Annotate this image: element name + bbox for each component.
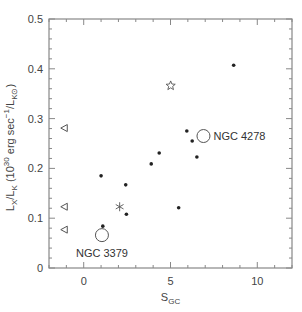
data-point-dot [124, 183, 128, 187]
data-point-dot [149, 162, 153, 166]
data-point-dot [125, 212, 129, 216]
data-marks [61, 64, 236, 242]
data-point-dot [190, 139, 194, 143]
y-tick-label: 0.5 [28, 13, 43, 25]
data-point-star [166, 81, 175, 90]
x-tick-label: 0 [81, 275, 87, 287]
data-point-circle [197, 130, 210, 143]
data-point-dot [101, 224, 105, 228]
y-axis-title-part: K⊙ [10, 88, 19, 100]
y-tick-label: 0.3 [28, 113, 43, 125]
y-tick-label: 0.1 [28, 212, 43, 224]
y-tick-label: 0.2 [28, 162, 43, 174]
y-axis-title: LX/LK (1030 erg sec−1/LK⊙) [2, 84, 19, 211]
x-axis-title: SGC [161, 291, 181, 306]
x-tick-label: 10 [251, 275, 263, 287]
scatter-chart: 0510 00.10.20.30.40.5 NGC 3379NGC 4278 S… [0, 0, 302, 312]
annotation-label: NGC 4278 [213, 130, 265, 142]
y-axis-title-part: /L [4, 100, 16, 109]
data-point-circle [95, 229, 108, 242]
plot-frame [49, 19, 292, 268]
x-axis-title-main: S [161, 291, 168, 303]
data-point-dot [195, 155, 199, 159]
y-tick-label: 0 [37, 262, 43, 274]
y-tick-labels: 00.10.20.30.40.5 [28, 13, 43, 274]
data-point-dot [157, 151, 161, 155]
data-point-asterisk [116, 202, 124, 211]
data-point-dot [177, 206, 181, 210]
data-point-dot [185, 129, 189, 133]
y-tick-label: 0.4 [28, 63, 43, 75]
data-point-triangle [61, 203, 68, 210]
annotations: NGC 3379NGC 4278 [76, 130, 266, 259]
x-tick-label: 5 [167, 275, 173, 287]
data-point-dot [232, 64, 236, 68]
annotation-label: NGC 3379 [76, 247, 128, 259]
x-tick-labels: 0510 [81, 275, 264, 287]
axis-ticks [49, 19, 292, 268]
data-point-dot [99, 174, 103, 178]
y-axis-title-part: erg sec [4, 118, 16, 158]
x-axis-title-sub: GC [168, 297, 180, 306]
y-axis-title-part: ) [4, 84, 16, 88]
data-point-triangle [61, 226, 68, 233]
y-axis-title-part: (10 [4, 166, 16, 185]
data-point-triangle [61, 125, 68, 132]
y-axis-title-part: /L [4, 191, 16, 200]
